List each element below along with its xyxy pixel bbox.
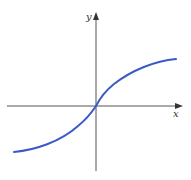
x-axis-label: x [173, 108, 179, 119]
y-axis-label: y [85, 11, 92, 22]
y-axis-arrow-icon [93, 12, 99, 20]
function-graph: x y [0, 0, 191, 180]
